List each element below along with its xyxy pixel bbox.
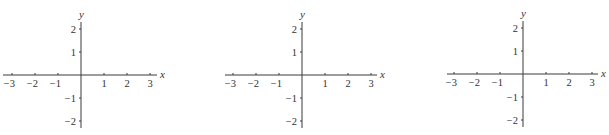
x-tick-label: −3 <box>225 78 236 89</box>
x-tick-label: 2 <box>124 78 129 89</box>
x-tick-label: 3 <box>589 77 594 88</box>
x-axis-label: x <box>600 67 606 79</box>
axes-canvas: xy−3−2−112321−1−2xy−3−2−112321−1−2xy−3−2… <box>0 0 609 135</box>
x-tick-label: −3 <box>4 78 15 89</box>
y-tick-label: 1 <box>71 47 76 58</box>
y-tick-label: 2 <box>513 23 518 34</box>
y-tick-label: 1 <box>292 47 297 58</box>
coordinate-plane-3: xy−3−2−112321−1−2 <box>446 7 606 127</box>
x-tick-label: 1 <box>322 78 327 89</box>
y-tick-label: −1 <box>65 93 76 104</box>
x-tick-label: 1 <box>101 78 106 89</box>
x-tick-label: 1 <box>543 77 548 88</box>
coordinate-plane-1: xy−3−2−112321−1−2 <box>3 8 165 128</box>
y-axis-label: y <box>78 8 84 20</box>
y-tick-label: 1 <box>513 46 518 57</box>
y-tick-label: −2 <box>65 116 76 127</box>
y-tick-label: 2 <box>292 24 297 35</box>
x-tick-label: −2 <box>469 77 480 88</box>
y-tick-label: −1 <box>286 93 297 104</box>
x-axis-label: x <box>159 68 165 80</box>
x-tick-label: −3 <box>446 77 457 88</box>
coordinate-plane-2: xy−3−2−112321−1−2 <box>225 8 385 128</box>
x-tick-label: −2 <box>248 78 259 89</box>
x-tick-label: 2 <box>566 77 571 88</box>
x-tick-label: −1 <box>50 78 61 89</box>
x-tick-label: 3 <box>147 78 152 89</box>
y-tick-label: −1 <box>507 92 518 103</box>
x-tick-label: −1 <box>271 78 282 89</box>
y-tick-label: −2 <box>507 115 518 126</box>
y-tick-label: 2 <box>71 24 76 35</box>
y-axis-label: y <box>299 8 305 20</box>
x-axis-label: x <box>379 68 385 80</box>
y-axis-label: y <box>520 7 526 19</box>
x-tick-label: −2 <box>27 78 38 89</box>
x-tick-label: −1 <box>492 77 503 88</box>
x-tick-label: 2 <box>345 78 350 89</box>
y-tick-label: −2 <box>286 116 297 127</box>
x-tick-label: 3 <box>368 78 373 89</box>
